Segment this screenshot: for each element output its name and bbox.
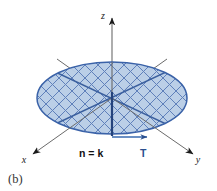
y-axis-label: y <box>195 154 201 165</box>
normal-vector-label: n = k <box>79 147 103 159</box>
panel-label: (b) <box>8 172 23 186</box>
vector-field-diagram: z x y n = k T (b) <box>0 0 217 191</box>
x-axis-label: x <box>21 154 27 165</box>
tangent-vector-label: T <box>140 147 147 159</box>
z-axis-label: z <box>100 10 105 21</box>
